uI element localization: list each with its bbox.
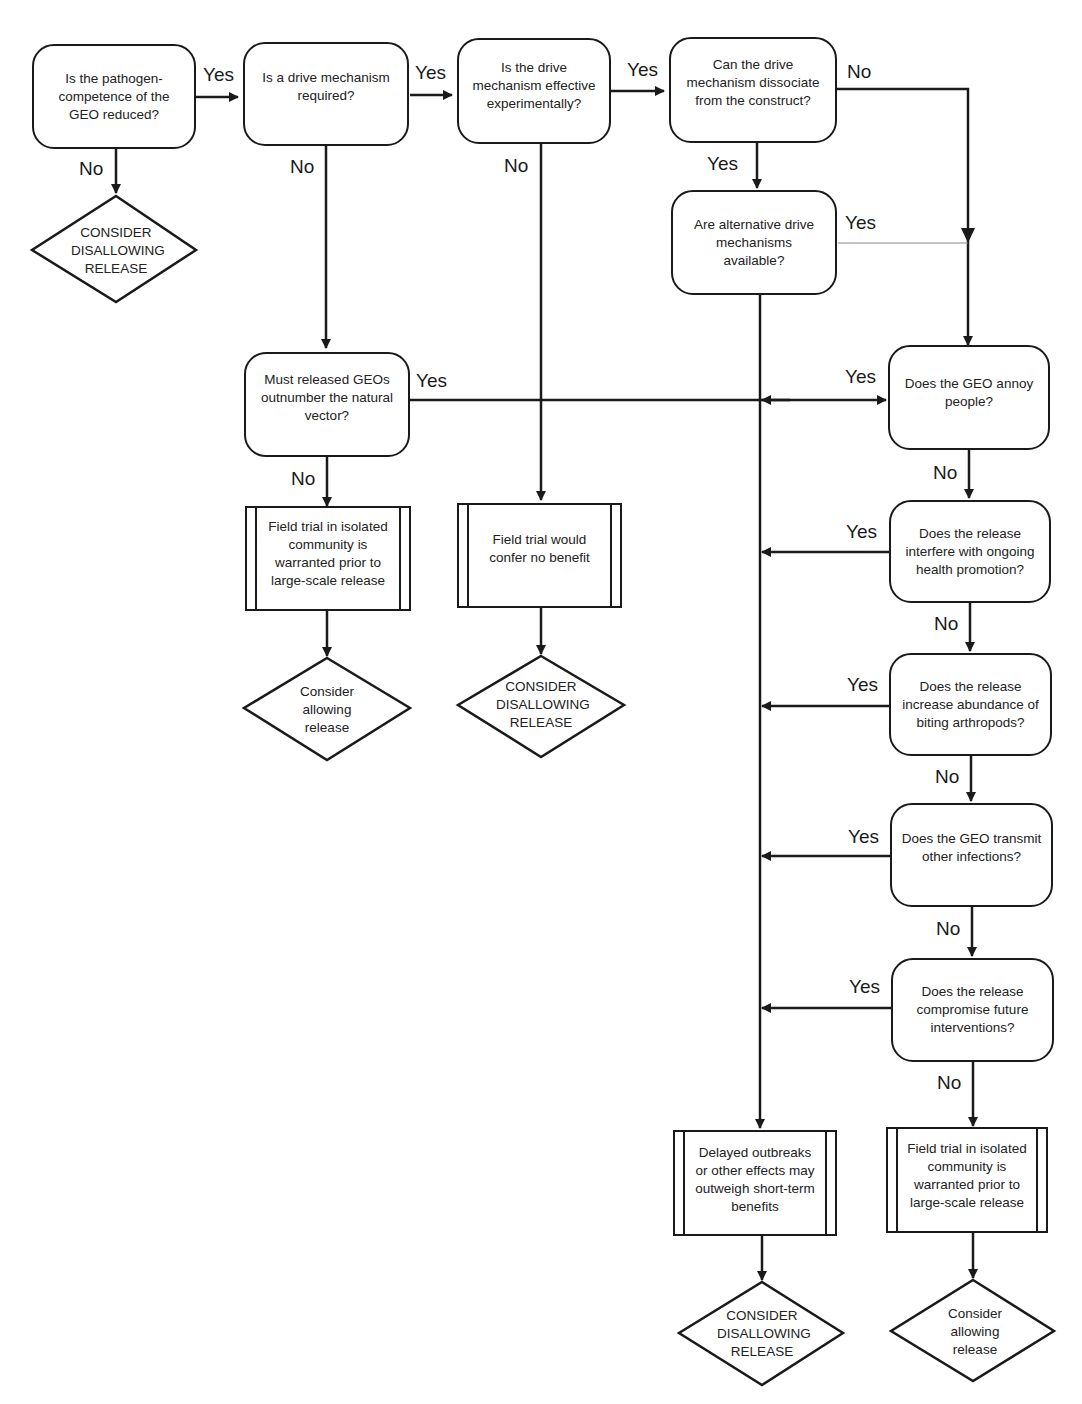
edge-label-yes: Yes	[416, 370, 447, 392]
node-text: Is the pathogen-competence of the GEO re…	[34, 70, 194, 124]
node-text: Is the drive mechanism effective experim…	[459, 59, 609, 123]
edge-label-no: No	[847, 61, 871, 83]
terminal-text: CONSIDER DISALLOWING RELEASE	[496, 678, 586, 732]
edge-label-yes: Yes	[415, 62, 446, 84]
edge-label-no: No	[936, 918, 960, 940]
node-pathogen-competence: Is the pathogen-competence of the GEO re…	[32, 44, 196, 149]
edge-label-no: No	[934, 613, 958, 635]
node-drive-effective: Is the drive mechanism effective experim…	[457, 38, 611, 144]
terminal-text: CONSIDER DISALLOWING RELEASE	[717, 1307, 807, 1361]
node-increase-biting-arthropods: Does the release increase abundance of b…	[889, 653, 1052, 756]
node-text: Field trial would confer no benefit	[459, 531, 620, 581]
node-outnumber-natural-vector: Must released GEOs outnumber the natural…	[244, 352, 410, 457]
node-interfere-health-promotion: Does the release interfere with ongoing …	[889, 500, 1051, 603]
node-drive-dissociate: Can the drive mechanism dissociate from …	[669, 37, 837, 143]
node-annoy-people: Does the GEO annoy people?	[888, 345, 1050, 450]
node-text: Does the release interfere with ongoing …	[891, 525, 1049, 579]
node-text: Delayed outbreaks or other effects may o…	[675, 1144, 835, 1222]
terminal-allow-release-1: Consider allowing release	[264, 684, 390, 736]
node-compromise-future-interventions: Does the release compromise future inter…	[891, 958, 1054, 1062]
process-field-trial-left: Field trial in isolated community is war…	[245, 506, 411, 611]
node-text: Must released GEOs outnumber the natural…	[246, 371, 408, 439]
process-delayed-outbreaks: Delayed outbreaks or other effects may o…	[673, 1130, 837, 1236]
terminal-disallow-release-1: CONSIDER DISALLOWING RELEASE	[52, 226, 180, 276]
node-text: Field trial in isolated community is war…	[247, 518, 409, 600]
terminal-allow-release-2: Consider allowing release	[912, 1306, 1038, 1358]
node-text: Is a drive mechanism required?	[245, 69, 407, 119]
terminal-text: CONSIDER DISALLOWING RELEASE	[71, 224, 161, 278]
edge-label-no: No	[504, 155, 528, 177]
edge-label-no: No	[290, 156, 314, 178]
terminal-disallow-release-3: CONSIDER DISALLOWING RELEASE	[699, 1309, 825, 1359]
edge-label-yes: Yes	[845, 212, 876, 234]
edge-label-yes: Yes	[848, 826, 879, 848]
edge-label-yes: Yes	[203, 64, 234, 86]
process-no-benefit: Field trial would confer no benefit	[457, 503, 622, 608]
terminal-text: Consider allowing release	[940, 1305, 1010, 1359]
node-drive-required: Is a drive mechanism required?	[243, 42, 409, 146]
node-text: Does the GEO annoy people?	[890, 375, 1048, 421]
node-text: Does the release increase abundance of b…	[891, 678, 1050, 732]
edge-label-yes: Yes	[845, 366, 876, 388]
edge-label-no: No	[937, 1072, 961, 1094]
process-field-trial-right: Field trial in isolated community is war…	[886, 1127, 1048, 1233]
edge-label-no: No	[291, 468, 315, 490]
node-text: Field trial in isolated community is war…	[888, 1140, 1046, 1220]
edge-label-no: No	[79, 158, 103, 180]
edge-label-yes: Yes	[847, 674, 878, 696]
terminal-disallow-release-2: CONSIDER DISALLOWING RELEASE	[478, 680, 604, 730]
node-text: Does the release compromise future inter…	[893, 983, 1052, 1037]
edge-label-yes: Yes	[849, 976, 880, 998]
edge-label-no: No	[933, 462, 957, 484]
terminal-text: Consider allowing release	[292, 683, 362, 737]
edge-label-yes: Yes	[846, 521, 877, 543]
edge-label-yes: Yes	[707, 153, 738, 175]
flowchart-canvas: Is the pathogen-competence of the GEO re…	[0, 0, 1082, 1404]
node-text: Does the GEO transmit other infections?	[892, 830, 1051, 880]
node-transmit-other-infections: Does the GEO transmit other infections?	[890, 803, 1053, 907]
edge-label-yes: Yes	[627, 59, 658, 81]
edge-label-no: No	[935, 766, 959, 788]
node-text: Are alternative drive mechanisms availab…	[673, 216, 835, 270]
node-alternative-drive: Are alternative drive mechanisms availab…	[671, 190, 837, 295]
node-text: Can the drive mechanism dissociate from …	[671, 56, 835, 124]
